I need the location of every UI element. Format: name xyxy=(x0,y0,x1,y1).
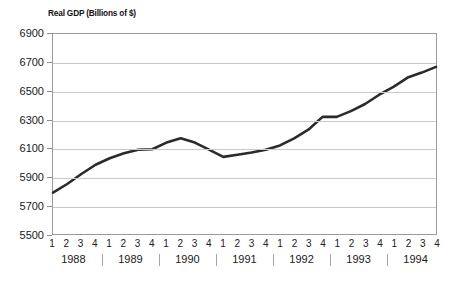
x-quarter-label: 1 xyxy=(159,238,173,249)
x-year-label: 1992 xyxy=(280,253,324,265)
x-quarter-label: 1 xyxy=(216,238,230,249)
y-tick-label: 5700 xyxy=(20,200,44,212)
x-year-label: 1988 xyxy=(51,253,95,265)
x-quarter-label: 1 xyxy=(387,238,401,249)
x-axis-year-labels: 1988198919901991199219931994 xyxy=(52,253,437,269)
x-year-label: 1989 xyxy=(108,253,152,265)
y-axis: 55005700590061006300650067006900 xyxy=(0,33,48,235)
real-gdp-line-chart: Real GDP (Billions of $) 550057005900610… xyxy=(0,0,460,283)
x-quarter-label: 3 xyxy=(131,238,145,249)
x-quarter-label: 4 xyxy=(259,238,273,249)
x-year-label: 1990 xyxy=(165,253,209,265)
x-quarter-label: 3 xyxy=(302,238,316,249)
x-quarter-label: 2 xyxy=(230,238,244,249)
y-tick-label: 5900 xyxy=(20,171,44,183)
y-tick-label: 6300 xyxy=(20,114,44,126)
y-tick-mark xyxy=(47,206,52,207)
chart-title: Real GDP (Billions of $) xyxy=(48,8,136,18)
plot-area xyxy=(52,33,437,235)
x-quarter-label: 4 xyxy=(373,238,387,249)
series-canvas xyxy=(53,34,436,234)
year-separator xyxy=(273,254,274,266)
x-year-label: 1993 xyxy=(337,253,381,265)
gridline xyxy=(53,149,436,150)
x-quarter-label: 3 xyxy=(188,238,202,249)
x-quarter-label: 3 xyxy=(245,238,259,249)
y-tick-label: 6500 xyxy=(20,85,44,97)
x-quarter-label: 4 xyxy=(88,238,102,249)
year-separator xyxy=(330,254,331,266)
x-quarter-label: 3 xyxy=(359,238,373,249)
x-quarter-label: 2 xyxy=(173,238,187,249)
x-quarter-label: 1 xyxy=(45,238,59,249)
x-quarter-label: 4 xyxy=(202,238,216,249)
y-tick-label: 6700 xyxy=(20,56,44,68)
x-quarter-label: 2 xyxy=(401,238,415,249)
x-quarter-label: 2 xyxy=(287,238,301,249)
y-tick-label: 5500 xyxy=(20,229,44,241)
x-quarter-label: 4 xyxy=(430,238,444,249)
x-quarter-label: 1 xyxy=(102,238,116,249)
real-gdp-series-line xyxy=(53,67,436,193)
x-quarter-label: 1 xyxy=(330,238,344,249)
x-year-label: 1994 xyxy=(394,253,438,265)
year-separator xyxy=(216,254,217,266)
y-tick-label: 6900 xyxy=(20,27,44,39)
x-quarter-label: 1 xyxy=(273,238,287,249)
year-separator xyxy=(159,254,160,266)
x-quarter-label: 2 xyxy=(116,238,130,249)
y-tick-mark xyxy=(47,33,52,34)
y-tick-label: 6100 xyxy=(20,142,44,154)
gridline xyxy=(53,92,436,93)
x-quarter-label: 2 xyxy=(59,238,73,249)
x-quarter-label: 4 xyxy=(145,238,159,249)
gridline xyxy=(53,178,436,179)
x-quarter-label: 3 xyxy=(74,238,88,249)
y-tick-mark xyxy=(47,177,52,178)
year-separator xyxy=(102,254,103,266)
y-tick-mark xyxy=(47,235,52,236)
year-separator xyxy=(387,254,388,266)
x-axis-quarter-labels: 1234123412341234123412341234 xyxy=(52,238,437,252)
x-year-label: 1991 xyxy=(223,253,267,265)
x-quarter-label: 4 xyxy=(316,238,330,249)
gridline xyxy=(53,121,436,122)
gridline xyxy=(53,207,436,208)
y-tick-mark xyxy=(47,148,52,149)
y-tick-mark xyxy=(47,62,52,63)
x-quarter-label: 3 xyxy=(416,238,430,249)
gridline xyxy=(53,63,436,64)
y-tick-mark xyxy=(47,91,52,92)
y-tick-mark xyxy=(47,120,52,121)
x-quarter-label: 2 xyxy=(344,238,358,249)
